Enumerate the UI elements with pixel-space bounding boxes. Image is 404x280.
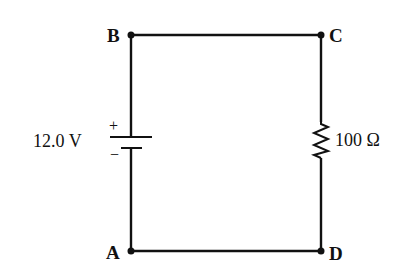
battery-negative-sign: − (110, 146, 119, 163)
node-a-dot (128, 248, 135, 255)
resistor-icon (314, 122, 328, 158)
node-label-a: A (106, 242, 120, 263)
node-label-b: B (107, 25, 120, 46)
resistor-value-label: 100 Ω (335, 130, 380, 150)
node-label-c: C (329, 25, 343, 46)
battery-voltage-label: 12.0 V (33, 131, 82, 151)
circuit-diagram: B C A D + − 12.0 V 100 Ω (0, 0, 404, 280)
node-c-dot (318, 32, 325, 39)
node-d-dot (318, 248, 325, 255)
battery-positive-sign: + (109, 117, 118, 134)
node-label-d: D (329, 243, 343, 264)
node-b-dot (128, 32, 135, 39)
